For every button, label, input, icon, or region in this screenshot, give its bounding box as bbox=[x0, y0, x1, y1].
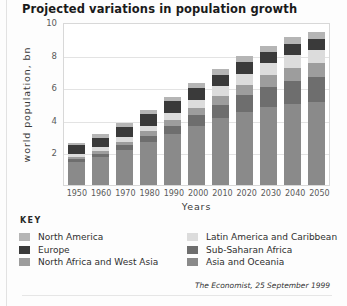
legend-swatch-icon bbox=[187, 233, 198, 241]
legend-column-right: Latin America and CaribbeanSub-Saharan A… bbox=[187, 231, 337, 269]
y-axis-label: world population, bn bbox=[19, 23, 33, 186]
x-tick-label: 2050 bbox=[309, 189, 326, 201]
y-tick-label: 8 bbox=[37, 50, 57, 60]
y-tick-label: 6 bbox=[37, 83, 57, 93]
legend-item-label: Latin America and Caribbean bbox=[206, 232, 337, 242]
x-axis-label: Years bbox=[63, 201, 330, 212]
legend-item: North Africa and West Asia bbox=[19, 256, 158, 269]
legend-item: North America bbox=[19, 231, 158, 244]
legend-item-label: North Africa and West Asia bbox=[38, 257, 158, 267]
page-title: Projected variations in population growt… bbox=[22, 2, 297, 16]
legend-item: Latin America and Caribbean bbox=[187, 231, 337, 244]
y-tick-label: 10 bbox=[37, 18, 57, 28]
legend-swatch-icon bbox=[19, 246, 30, 254]
legend-item-label: Asia and Oceania bbox=[206, 257, 284, 267]
legend-column-left: North AmericaEuropeNorth Africa and West… bbox=[19, 231, 158, 269]
legend-item: Europe bbox=[19, 244, 158, 257]
x-tick-label: 1970 bbox=[115, 189, 132, 201]
x-tick-label: 2040 bbox=[285, 189, 302, 201]
y-tick-label: 4 bbox=[37, 115, 57, 125]
legend-swatch-icon bbox=[187, 258, 198, 266]
legend-swatch-icon bbox=[19, 258, 30, 266]
source-note: The Economist, 25 September 1999 bbox=[195, 281, 330, 290]
legend-item-label: North America bbox=[38, 232, 103, 242]
x-tick-label: 2020 bbox=[236, 189, 253, 201]
x-axis-ticks: 1950196019701980199020002010202020302040… bbox=[63, 189, 330, 201]
x-tick-label: 1960 bbox=[91, 189, 108, 201]
y-tick-label: 2 bbox=[37, 148, 57, 158]
left-rule bbox=[6, 0, 7, 306]
legend-swatch-icon bbox=[19, 233, 30, 241]
legend-item: Sub-Saharan Africa bbox=[187, 244, 337, 257]
bottom-rule bbox=[22, 295, 332, 296]
legend-heading: KEY bbox=[20, 216, 42, 225]
legend-swatch-icon bbox=[187, 246, 198, 254]
legend-item-label: Europe bbox=[38, 245, 70, 255]
y-axis: world population, bn 246810 bbox=[63, 23, 330, 186]
x-tick-label: 1980 bbox=[139, 189, 156, 201]
x-tick-label: 2030 bbox=[261, 189, 278, 201]
x-tick-label: 2000 bbox=[188, 189, 205, 201]
x-tick-label: 1990 bbox=[164, 189, 181, 201]
legend-item-label: Sub-Saharan Africa bbox=[206, 245, 292, 255]
legend-item: Asia and Oceania bbox=[187, 256, 337, 269]
x-tick-label: 2010 bbox=[212, 189, 229, 201]
x-tick-label: 1950 bbox=[67, 189, 84, 201]
chart-figure: Projected variations in population growt… bbox=[0, 0, 347, 306]
